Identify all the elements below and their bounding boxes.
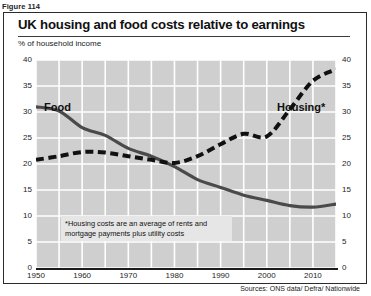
- y-axis-tick-right: 5: [342, 237, 364, 246]
- x-axis-line: [36, 268, 338, 270]
- series-label-food: Food: [44, 101, 71, 113]
- footnote-annotation: *Housing costs are an average of rents a…: [61, 216, 232, 241]
- y-axis-tick-right: 10: [342, 211, 364, 220]
- y-axis-tick-right: 40: [342, 55, 364, 64]
- x-axis-tick: 2000: [250, 271, 284, 280]
- title-divider: [18, 36, 350, 37]
- x-axis-tick: 1980: [157, 271, 191, 280]
- y-axis-tick-right: 35: [342, 81, 364, 90]
- figure-caption: Figure 114: [0, 0, 371, 12]
- x-axis-tick: 1990: [204, 271, 238, 280]
- series-label-housing: Housing*: [277, 101, 325, 113]
- y-axis-tick-left: 10: [12, 211, 32, 220]
- chart-frame: UK housing and food costs relative to ea…: [3, 12, 367, 284]
- y-axis-tick-right: 20: [342, 159, 364, 168]
- chart-title: UK housing and food costs relative to ea…: [18, 17, 348, 32]
- x-axis-tick: 1950: [19, 271, 53, 280]
- x-axis-tick: 1960: [65, 271, 99, 280]
- x-axis-tick: 2010: [296, 271, 330, 280]
- y-axis-tick-right: 0: [342, 263, 364, 272]
- x-axis-tick: 1970: [111, 271, 145, 280]
- y-axis-tick-right: 25: [342, 133, 364, 142]
- y-axis-tick-left: 20: [12, 159, 32, 168]
- y-axis-tick-left: 35: [12, 81, 32, 90]
- y-axis-tick-left: 30: [12, 107, 32, 116]
- y-axis-tick-left: 40: [12, 55, 32, 64]
- y-axis-tick-left: 15: [12, 185, 32, 194]
- source-note: Sources: ONS data/ Defra/ Nationwide: [240, 285, 360, 292]
- y-axis-tick-left: 25: [12, 133, 32, 142]
- y-axis-tick-left: 5: [12, 237, 32, 246]
- chart-subtitle: % of household income: [18, 39, 101, 48]
- y-axis-tick-right: 30: [342, 107, 364, 116]
- y-axis-tick-right: 15: [342, 185, 364, 194]
